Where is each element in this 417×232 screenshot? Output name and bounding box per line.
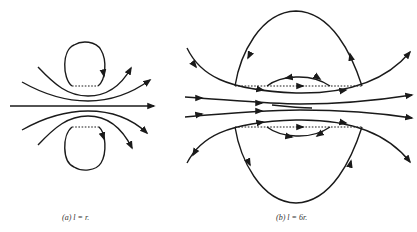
- arrow-icon: [103, 70, 104, 76]
- arrow-icon: [317, 77, 320, 79]
- caption-a-text: l = r.: [73, 213, 89, 222]
- panel-a-diagram: [10, 42, 154, 170]
- caption-a: (a) l = r.: [62, 213, 89, 222]
- top-dome: [235, 11, 362, 86]
- top-lens: [267, 77, 330, 86]
- bottom-dome: [235, 127, 362, 203]
- top-loop: [65, 42, 105, 86]
- arrow-icon: [257, 89, 263, 90]
- lower-inner-streamline: [38, 116, 132, 148]
- mid-streamline: [272, 105, 312, 108]
- arrow-icon: [350, 54, 351, 58]
- arrow-icon: [350, 161, 351, 165]
- arrow-icon: [286, 77, 292, 78]
- upper-center-streamline: [185, 95, 412, 104]
- arrow-icon: [196, 114, 202, 115]
- caption-a-label: (a): [62, 213, 71, 222]
- upper-outer-streamline: [22, 80, 150, 101]
- bottom-lens: [267, 127, 330, 136]
- streamline-figure: [0, 0, 417, 232]
- arrow-icon: [340, 122, 346, 123]
- caption-b-label: (b): [276, 213, 285, 222]
- arrow-icon: [248, 54, 250, 58]
- upper-inner-streamline: [38, 67, 131, 96]
- arrow-icon: [340, 90, 346, 91]
- caption-b: (b) l = 6r.: [276, 213, 307, 222]
- bottom-loop: [65, 127, 105, 170]
- lower-center-streamline: [185, 110, 412, 118]
- lower-outer-streamline: [22, 111, 147, 133]
- arrow-icon: [317, 134, 320, 136]
- caption-b-text: l = 6r.: [287, 213, 307, 222]
- arrow-icon: [286, 136, 292, 137]
- arrow-icon: [248, 161, 250, 165]
- panel-b-diagram: [185, 11, 412, 203]
- arrow-icon: [193, 63, 196, 67]
- arrow-icon: [257, 122, 263, 123]
